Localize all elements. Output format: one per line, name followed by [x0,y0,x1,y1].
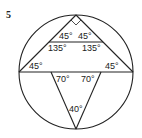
angle-bottom: 40° [69,104,83,114]
angle-top-right: 45° [78,31,92,41]
angle-mid-right: 135° [82,43,101,53]
angle-diam-left: 45° [29,61,43,71]
angle-lower-left: 70° [56,74,70,84]
angle-diam-right: 45° [105,61,119,71]
angle-mid-left: 135° [48,43,67,53]
angle-top-left: 45° [59,31,73,41]
geometry-figure: 45° 45° 135° 135° 45° 45° 70° 70° 40° [0,0,142,138]
angle-lower-right: 70° [81,74,95,84]
right-angle-mark [71,20,81,25]
